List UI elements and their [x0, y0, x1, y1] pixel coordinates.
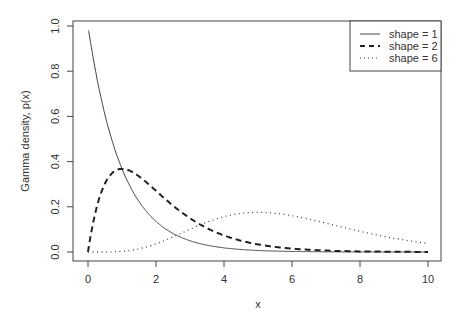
y-tick-label: 0.8 — [49, 64, 61, 79]
x-axis: 0246810 — [85, 261, 434, 285]
y-tick-label: 0.6 — [49, 109, 61, 124]
y-tick-label: 0.0 — [49, 244, 61, 259]
x-tick-label: 10 — [422, 273, 434, 285]
x-tick-label: 0 — [85, 273, 91, 285]
x-tick-label: 4 — [221, 273, 227, 285]
legend-item: shape = 6 — [389, 52, 438, 64]
x-tick-label: 6 — [289, 273, 295, 285]
x-tick-label: 2 — [153, 273, 159, 285]
y-axis-label: Gamma density, p(x) — [19, 90, 31, 191]
legend-item: shape = 1 — [389, 28, 438, 40]
x-tick-label: 8 — [357, 273, 363, 285]
y-tick-label: 0.2 — [49, 199, 61, 214]
x-axis-label: x — [255, 298, 261, 310]
series-line-shape-2 — [88, 169, 428, 252]
y-axis: 0.00.20.40.60.81.0 — [49, 18, 73, 259]
gamma-density-chart: 0246810 0.00.20.40.60.81.0 x Gamma densi… — [0, 0, 463, 326]
legend: shape = 1 shape = 2 shape = 6 — [350, 21, 441, 71]
series-line-shape-6 — [88, 212, 428, 252]
legend-item: shape = 2 — [389, 40, 438, 52]
y-tick-label: 0.4 — [49, 154, 61, 169]
y-tick-label: 1.0 — [49, 18, 61, 33]
